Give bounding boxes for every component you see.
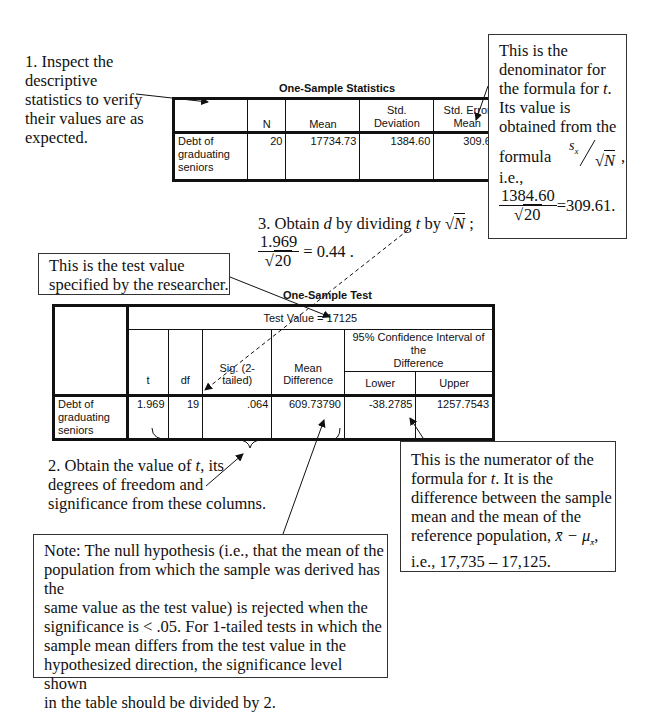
note-calculation: 1384.60√20=309.61.	[499, 187, 626, 224]
note-line: difference between the sample	[411, 488, 615, 507]
note-line: obtained from the	[499, 117, 626, 136]
test-cell-upper: 1257.7543	[416, 396, 494, 440]
step3-line1: 3. Obtain d by dividing t by √N ;	[258, 214, 498, 233]
step1-line: statistics to verify	[25, 90, 175, 109]
test-header-upper: Upper	[416, 372, 494, 396]
note-line: significance is < .05. For 1-tailed test…	[44, 617, 387, 636]
note-line: This is the numerator of the	[411, 450, 615, 469]
step2-annotation: 2. Obtain the value of t, its degrees of…	[48, 456, 278, 513]
one-sample-statistics-title: One-Sample Statistics	[172, 82, 502, 94]
test-cell-mean-diff: 609.73790	[272, 396, 345, 440]
note-line: in the table should be divided by 2.	[44, 693, 387, 712]
step2-line3: significance from these columns.	[48, 494, 278, 513]
test-header-lower: Lower	[344, 372, 415, 396]
stats-header-mean: Mean	[286, 99, 360, 133]
step1-line: their values are as	[25, 109, 175, 128]
one-sample-statistics-table: N Mean Std. Deviation Std. Error Mean De…	[172, 97, 503, 182]
table-row: Debt of graduating seniors 20 17734.73 1…	[174, 133, 502, 181]
test-cell-sig: .064	[203, 396, 272, 440]
one-sample-test-title: One-Sample Test	[52, 289, 603, 301]
note-line: the formula for t.	[499, 79, 626, 98]
one-sample-test-table: Test Value = 17125 t df Sig. (2-tailed) …	[52, 304, 495, 441]
table-row: Debt of graduating seniors 1.969 19 .064…	[54, 396, 494, 440]
stats-header-std-dev: Std. Deviation	[360, 99, 434, 133]
step3-calculation: 1.969√20 = 0.44 .	[258, 233, 498, 270]
note-line: mean and the mean of the	[411, 507, 615, 526]
note-line: reference population, x̄ − μx̄,	[411, 526, 615, 552]
test-value-header: Test Value = 17125	[127, 306, 493, 330]
step2-line1: 2. Obtain the value of t, its	[48, 456, 278, 475]
step1-annotation: 1. Inspect the descriptive statistics to…	[25, 52, 175, 147]
note-line: denominator for	[499, 60, 626, 79]
note-line: same value as the test value) is rejecte…	[44, 598, 387, 617]
note-line: i.e.,	[499, 168, 626, 187]
note-line: Note: The null hypothesis (i.e., that th…	[44, 541, 387, 560]
numerator-note: This is the numerator of the formula for…	[400, 441, 616, 572]
note-line: hypothesized direction, the significance…	[44, 655, 387, 693]
note-line: population from which the sample was der…	[44, 560, 387, 598]
denominator-note: This is the denominator for the formula …	[488, 34, 627, 239]
null-hypothesis-note: Note: The null hypothesis (i.e., that th…	[33, 534, 388, 678]
test-header-t: t	[127, 330, 168, 396]
stats-header-empty	[174, 99, 248, 133]
stats-cell-n: 20	[247, 133, 286, 181]
note-line: This is the test value	[49, 256, 229, 275]
note-line: sample mean differs from the test value …	[44, 636, 387, 655]
note-line: Its value is	[499, 98, 626, 117]
stats-cell-mean: 17734.73	[286, 133, 360, 181]
test-header-ci: 95% Confidence Interval of the Differenc…	[344, 330, 493, 372]
test-row-label: Debt of graduating seniors	[54, 396, 128, 440]
test-header-sig: Sig. (2-tailed)	[203, 330, 272, 396]
step1-line: descriptive	[25, 71, 175, 90]
note-line: i.e., 17,735 – 17,125.	[411, 552, 615, 571]
test-header-mean-diff: Mean Difference	[272, 330, 345, 396]
test-cell-lower: -38.2785	[344, 396, 415, 440]
test-header-df: df	[168, 330, 203, 396]
note-line: This is the	[499, 41, 626, 60]
step1-line: expected.	[25, 128, 175, 147]
step3-annotation: 3. Obtain d by dividing t by √N ; 1.969√…	[258, 214, 498, 270]
test-header-empty	[54, 306, 128, 396]
step2-line2: degrees of freedom and	[48, 475, 278, 494]
stats-cell-std-dev: 1384.60	[360, 133, 434, 181]
stats-header-n: N	[247, 99, 286, 133]
step1-line: 1. Inspect the	[25, 52, 175, 71]
stats-row-label: Debt of graduating seniors	[174, 133, 248, 181]
test-cell-df: 19	[168, 396, 203, 440]
test-cell-t: 1.969	[127, 396, 168, 440]
note-line: formula for t. It is the	[411, 469, 615, 488]
note-formula: formula sx √N ,	[499, 138, 626, 168]
